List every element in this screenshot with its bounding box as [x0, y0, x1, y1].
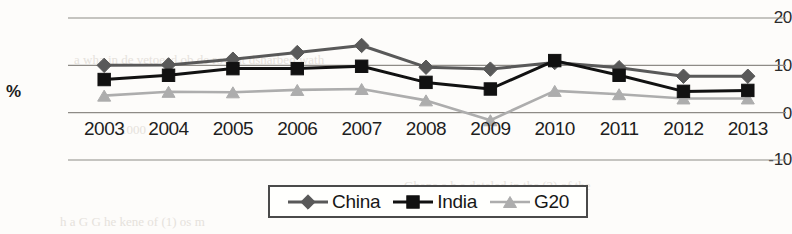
x-tick-label: 2009 — [470, 118, 510, 140]
legend-item-china[interactable]: China — [287, 191, 380, 213]
x-axis-tick-labels: 2003200420052006200720082009201020112012… — [68, 118, 786, 148]
x-tick-label: 2005 — [213, 118, 253, 140]
diamond-marker-icon — [741, 69, 755, 83]
square-marker-icon — [227, 62, 239, 74]
square-marker-icon — [549, 54, 561, 66]
square-marker-icon — [742, 84, 754, 96]
x-tick-label: 2011 — [600, 118, 639, 140]
scan-bleed-text: h a G G he kene of (1) os m — [60, 214, 205, 230]
x-tick-label: 2010 — [535, 118, 575, 140]
x-tick-label: 2012 — [663, 118, 703, 140]
diamond-marker-icon — [287, 193, 329, 211]
diamond-marker-icon — [301, 194, 315, 208]
chart-figure: a wha in de vetoeed ob de rovent dsharbe… — [0, 0, 792, 234]
legend-item-g20[interactable]: G20 — [489, 191, 569, 213]
x-tick-label: 2007 — [341, 118, 381, 140]
square-marker-icon — [420, 76, 432, 88]
square-marker-icon — [407, 195, 419, 207]
triangle-marker-icon — [489, 193, 531, 211]
diamond-marker-icon — [97, 58, 111, 72]
diamond-marker-icon — [483, 62, 497, 76]
x-tick-label: 2003 — [84, 118, 124, 140]
legend-label: China — [332, 191, 380, 213]
square-marker-icon — [98, 73, 110, 85]
square-marker-icon — [392, 193, 434, 211]
square-marker-icon — [613, 69, 625, 81]
legend-label: G20 — [534, 191, 569, 213]
legend: ChinaIndiaG20 — [268, 185, 588, 218]
y-axis-label: % — [6, 82, 21, 102]
x-tick-label: 2004 — [148, 118, 188, 140]
diamond-marker-icon — [290, 45, 304, 59]
diamond-marker-icon — [676, 69, 690, 83]
x-tick-label: 2013 — [728, 118, 768, 140]
legend-item-india[interactable]: India — [392, 191, 477, 213]
square-marker-icon — [162, 69, 174, 81]
diamond-marker-icon — [419, 60, 433, 74]
square-marker-icon — [291, 62, 303, 74]
diamond-marker-icon — [354, 38, 368, 52]
square-marker-icon — [355, 60, 367, 72]
x-tick-label: 2006 — [277, 118, 317, 140]
x-tick-label: 2008 — [406, 118, 446, 140]
square-marker-icon — [484, 83, 496, 95]
legend-label: India — [437, 191, 477, 213]
square-marker-icon — [677, 85, 689, 97]
